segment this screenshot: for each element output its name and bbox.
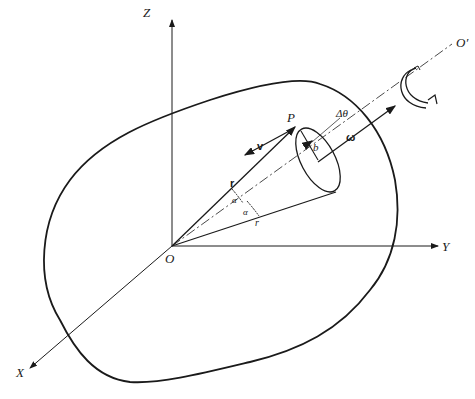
delta-theta-label: Δθ	[336, 108, 348, 119]
diagram-drawing	[0, 0, 475, 399]
rigid-body-outline	[44, 81, 398, 382]
origin-label: O	[165, 252, 174, 265]
x-axis	[30, 246, 172, 368]
cone-generator	[172, 192, 336, 246]
z-axis-label: Z	[143, 6, 150, 19]
rotation-axis-label: O′	[456, 36, 468, 49]
r-vector-label: r	[230, 178, 234, 189]
alpha-label-2: α	[243, 208, 248, 217]
omega-vector	[318, 106, 395, 162]
omega-label: ω	[346, 132, 355, 143]
rotation-axis	[172, 44, 452, 246]
generator-r-label: r	[255, 218, 259, 228]
v-vector-label: v	[257, 141, 263, 152]
x-axis-label: X	[16, 366, 24, 379]
point-p-label: P	[287, 111, 295, 124]
alpha-label-1: α	[232, 196, 237, 205]
angle-arc-2	[247, 201, 259, 216]
rigid-body-diagram: Z Y X O O′ ω P r v b Δθ α α r	[0, 0, 475, 399]
rotation-sense-icon	[401, 66, 437, 108]
b-label: b	[313, 142, 319, 153]
delta-theta-leader	[312, 118, 340, 142]
velocity-vector-v	[245, 129, 293, 155]
y-axis-label: Y	[442, 240, 449, 253]
